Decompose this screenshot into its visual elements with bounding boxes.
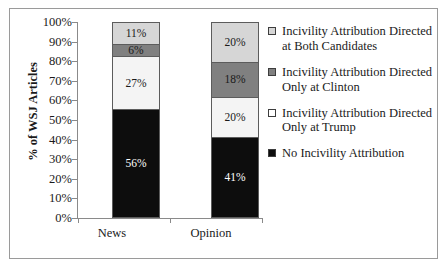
legend-swatch-icon [268, 27, 276, 35]
legend-label: Incivility Attribution Directed at Both … [282, 24, 436, 54]
plot-area: 11%6%27%56% 20%18%20%41% [78, 22, 262, 218]
legend-entry[interactable]: Incivility Attribution Directed Only at … [268, 106, 436, 136]
y-axis-tick-label: 80% [28, 55, 72, 68]
y-axis-tick-mark [72, 22, 77, 23]
y-axis-tick-mark [72, 81, 77, 82]
y-axis-tick-mark [72, 120, 77, 121]
legend-label: Incivility Attribution Directed Only at … [282, 106, 436, 136]
bar-opinion: 20%18%20%41% [211, 22, 259, 218]
x-axis-label-news: News [67, 226, 157, 241]
y-axis-tick-mark [72, 42, 77, 43]
legend-swatch-icon [268, 149, 276, 157]
bar-segment: 20% [211, 97, 259, 138]
y-axis-tick-mark [72, 218, 77, 219]
y-axis-tick-label: 30% [28, 153, 72, 166]
bar-segment-value-label: 56% [125, 158, 146, 170]
y-axis-tick-label: 60% [28, 94, 72, 107]
bar-news: 11%6%27%56% [112, 22, 160, 218]
bar-segment-value-label: 18% [224, 74, 245, 86]
y-axis-tick-label: 100% [28, 16, 72, 29]
stacked-bar-chart: % of WSJ Articles 100%90%80%70%60%50%40%… [0, 0, 447, 275]
bar-segment: 18% [211, 62, 259, 99]
y-axis-tick-label: 90% [28, 35, 72, 48]
legend-entry[interactable]: Incivility Attribution Directed Only at … [268, 65, 436, 95]
y-axis-tick-labels: 100%90%80%70%60%50%40%30%20%10%0% [28, 12, 72, 217]
legend-label: Incivility Attribution Directed Only at … [282, 65, 436, 95]
legend-entry[interactable]: No Incivility Attribution [268, 146, 436, 161]
y-axis-tick-label: 20% [28, 173, 72, 186]
x-axis-tick-mark [78, 218, 79, 223]
bar-segment: 11% [112, 22, 160, 45]
x-axis-tick-mark [262, 218, 263, 223]
bar-segment-value-label: 20% [224, 112, 245, 124]
x-axis-label-opinion: Opinion [166, 226, 256, 241]
legend-swatch-icon [268, 68, 276, 76]
bar-segment: 6% [112, 44, 160, 57]
bar-segment: 41% [211, 137, 259, 218]
chart-legend: Incivility Attribution Directed at Both … [268, 24, 436, 172]
y-axis-tick-mark [72, 61, 77, 62]
legend-entry[interactable]: Incivility Attribution Directed at Both … [268, 24, 436, 54]
y-axis-tick-mark [72, 140, 77, 141]
y-axis-tick-label: 10% [28, 192, 72, 205]
bar-segment-value-label: 6% [128, 45, 143, 57]
y-axis-tick-mark [72, 179, 77, 180]
bar-segment: 20% [211, 22, 259, 63]
y-axis-tick-label: 50% [28, 114, 72, 127]
legend-swatch-icon [268, 109, 276, 117]
y-axis-tick-label: 70% [28, 75, 72, 88]
bar-segment-value-label: 27% [125, 78, 146, 90]
y-axis-tick-mark [72, 159, 77, 160]
bar-segment: 27% [112, 56, 160, 110]
x-axis-tick-mark [170, 218, 171, 223]
y-axis-tick-mark [72, 100, 77, 101]
bar-segment-value-label: 11% [126, 28, 147, 40]
bar-segment-value-label: 41% [224, 172, 245, 184]
y-axis-tick-mark [72, 198, 77, 199]
y-axis-tick-label: 0% [28, 212, 72, 225]
bar-segment-value-label: 20% [224, 37, 245, 49]
y-axis-tick-label: 40% [28, 133, 72, 146]
bar-segment: 56% [112, 109, 160, 218]
legend-label: No Incivility Attribution [282, 146, 436, 161]
